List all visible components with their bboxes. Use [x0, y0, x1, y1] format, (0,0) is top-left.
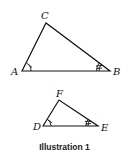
angle-a-arc: [27, 63, 32, 71]
vertex-label-b: B: [112, 66, 120, 77]
vertex-label-a: A: [10, 66, 18, 77]
angle-e-tick: [85, 121, 91, 122]
triangle-def: D F E: [32, 88, 109, 133]
vertex-label-f: F: [55, 88, 64, 99]
figure-caption: Illustration 1: [0, 142, 129, 152]
similar-triangles-diagram: A C B D F E: [0, 0, 129, 157]
vertex-label-e: E: [100, 122, 109, 133]
triangle-abc: A C B: [10, 10, 120, 77]
vertex-label-c: C: [41, 10, 49, 21]
angle-b-tick: [96, 66, 102, 67]
vertex-label-d: D: [32, 121, 41, 132]
